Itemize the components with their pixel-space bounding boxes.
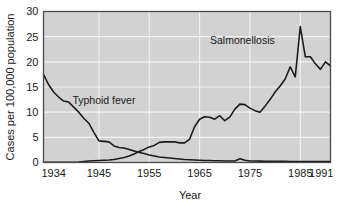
annotation-salmonellosis: Salmonellosis: [210, 34, 275, 46]
y-tick-label-5: 5: [32, 131, 38, 143]
x-tick-label-1955: 1955: [137, 167, 161, 179]
x-tick-label-1965: 1965: [187, 167, 211, 179]
x-tick-label-1934: 1934: [42, 167, 66, 179]
x-axis-title: Year: [179, 189, 202, 201]
y-tick-label-30: 30: [26, 5, 38, 17]
y-tick-label-25: 25: [26, 31, 38, 43]
x-tick-label-1975: 1975: [238, 167, 262, 179]
chart-figure: 051015202530 193419451955196519751985199…: [0, 0, 346, 208]
y-axis-title: Cases per 100,000 population: [4, 14, 16, 161]
epidemiology-line-chart: 051015202530 193419451955196519751985199…: [0, 0, 346, 208]
y-tick-label-10: 10: [26, 106, 38, 118]
x-tick-label-1945: 1945: [87, 167, 111, 179]
y-tick-label-15: 15: [26, 81, 38, 93]
y-tick-label-20: 20: [26, 56, 38, 68]
x-tick-label-1991: 1991: [309, 167, 333, 179]
y-tick-label-0: 0: [32, 156, 38, 168]
annotation-typhoid-fever: Typhoid fever: [72, 94, 136, 106]
